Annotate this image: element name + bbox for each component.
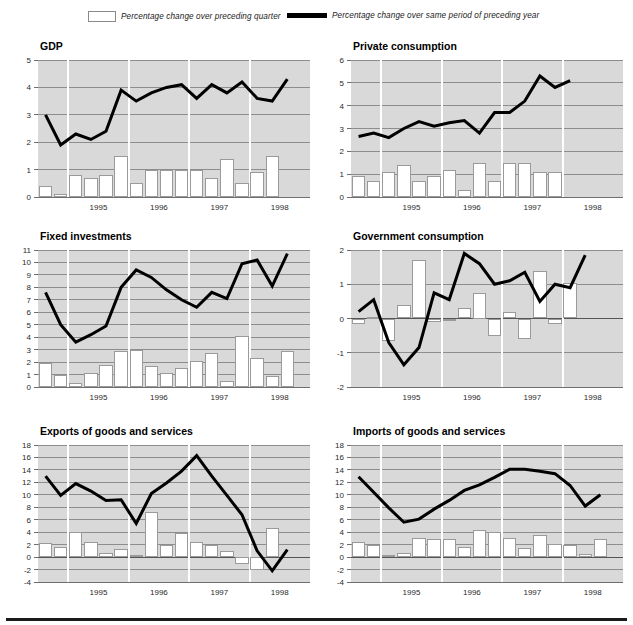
y-axis-label: 6 — [316, 515, 344, 524]
y-axis-label: 9 — [3, 270, 31, 279]
x-axis-label: 1996 — [463, 203, 481, 212]
chart-title: Exports of goods and services — [40, 425, 193, 437]
y-axis-label: 5 — [316, 78, 344, 87]
chart-panel: GDP0123451995199619971998 — [0, 34, 313, 224]
plot-area: -4-2024681012141618 — [38, 445, 310, 582]
y-axis-label: -2 — [316, 565, 344, 574]
y-axis-label: 14 — [316, 465, 344, 474]
x-axis-label: 1998 — [271, 588, 289, 597]
y-axis-label: 16 — [3, 453, 31, 462]
x-axis-line — [351, 582, 623, 583]
legend-entry-line: Percentage change over same period of pr… — [287, 11, 539, 20]
line-path — [46, 79, 288, 145]
y-axis-label: 1 — [3, 370, 31, 379]
chart-panel: Imports of goods and services-4-20246810… — [313, 419, 626, 609]
x-axis-line — [351, 387, 623, 388]
x-axis-label: 1995 — [403, 203, 421, 212]
y-axis-label: 6 — [3, 308, 31, 317]
x-axis-label: 1997 — [523, 203, 541, 212]
y-axis-label: 4 — [3, 83, 31, 92]
legend-bar-swatch — [88, 11, 116, 22]
line-path — [359, 76, 571, 138]
yoy-line-series — [351, 60, 623, 197]
y-axis-label: 8 — [316, 503, 344, 512]
x-axis-label: 1997 — [523, 393, 541, 402]
plot-area: -2-1012 — [351, 250, 623, 387]
y-axis-label: 4 — [3, 333, 31, 342]
plot-area: -4-2024681012141618 — [351, 445, 623, 582]
yoy-line-series — [38, 250, 310, 387]
y-axis-label: 2 — [3, 138, 31, 147]
chart-panel: Government consumption-2-101219951996199… — [313, 224, 626, 414]
y-axis-label: 3 — [3, 345, 31, 354]
y-axis-label: -4 — [3, 578, 31, 587]
y-axis-label: 12 — [316, 478, 344, 487]
y-axis-label: 2 — [3, 540, 31, 549]
y-axis-label: 1 — [3, 165, 31, 174]
x-axis-label: 1996 — [150, 393, 168, 402]
x-axis-label: 1997 — [210, 588, 228, 597]
chart-title: Fixed investments — [40, 230, 132, 242]
x-axis-label: 1997 — [210, 203, 228, 212]
x-axis-line — [351, 197, 623, 198]
y-axis-label: 4 — [316, 101, 344, 110]
x-axis-label: 1997 — [210, 393, 228, 402]
y-axis-label: 16 — [316, 453, 344, 462]
y-axis-label: 5 — [3, 56, 31, 65]
legend-entry-bar: Percentage change over preceding quarter — [88, 11, 281, 22]
x-axis-label: 1998 — [584, 393, 602, 402]
chart-legend: Percentage change over preceding quarter… — [0, 0, 633, 34]
y-axis-label: -4 — [316, 578, 344, 587]
line-path — [46, 254, 288, 342]
y-axis-label: 0 — [316, 193, 344, 202]
y-axis-label: 3 — [316, 124, 344, 133]
x-axis-label: 1995 — [90, 203, 108, 212]
yoy-line-series — [38, 60, 310, 197]
x-axis-label: 1998 — [271, 203, 289, 212]
yoy-line-series — [351, 445, 623, 582]
y-axis-label: 0 — [316, 553, 344, 562]
plot-area: 0123456 — [351, 60, 623, 197]
x-axis-label: 1996 — [463, 393, 481, 402]
y-axis-label: 6 — [3, 515, 31, 524]
y-axis-label: 8 — [3, 503, 31, 512]
y-axis-label: 10 — [3, 258, 31, 267]
y-axis-label: -2 — [3, 565, 31, 574]
y-axis-label: -2 — [316, 383, 344, 392]
x-axis-label: 1998 — [584, 588, 602, 597]
chart-title: GDP — [40, 40, 63, 52]
line-path — [359, 253, 586, 364]
x-axis-label: 1997 — [523, 588, 541, 597]
x-axis-label: 1995 — [90, 588, 108, 597]
yoy-line-series — [351, 250, 623, 387]
y-axis-label: 6 — [316, 56, 344, 65]
yoy-line-series — [38, 445, 310, 582]
x-axis-label: 1998 — [584, 203, 602, 212]
y-axis-label: 18 — [3, 441, 31, 450]
y-axis-label: 0 — [3, 383, 31, 392]
y-axis-label: 1 — [316, 170, 344, 179]
y-axis-label: 12 — [3, 478, 31, 487]
x-axis-line — [38, 197, 310, 198]
y-axis-label: 2 — [316, 147, 344, 156]
y-axis-label: 18 — [316, 441, 344, 450]
y-axis-label: 4 — [3, 528, 31, 537]
x-axis-label: 1996 — [463, 588, 481, 597]
y-axis-label: 1 — [316, 280, 344, 289]
y-axis-label: 5 — [3, 320, 31, 329]
x-axis-label: 1996 — [150, 588, 168, 597]
chart-panel: Private consumption012345619951996199719… — [313, 34, 626, 224]
chart-title: Government consumption — [353, 230, 484, 242]
chart-title: Private consumption — [353, 40, 457, 52]
y-axis-label: 2 — [316, 246, 344, 255]
chart-panel: Fixed investments01234567891011199519961… — [0, 224, 313, 414]
legend-line-label: Percentage change over same period of pr… — [332, 11, 539, 20]
plot-area: 012345 — [38, 60, 310, 197]
page-bottom-rule — [6, 618, 627, 621]
legend-line-swatch — [287, 13, 327, 18]
y-axis-label: 11 — [3, 246, 31, 255]
y-axis-label: 0 — [3, 553, 31, 562]
y-axis-label: 7 — [3, 295, 31, 304]
y-axis-label: 3 — [3, 110, 31, 119]
y-axis-label: 2 — [316, 540, 344, 549]
